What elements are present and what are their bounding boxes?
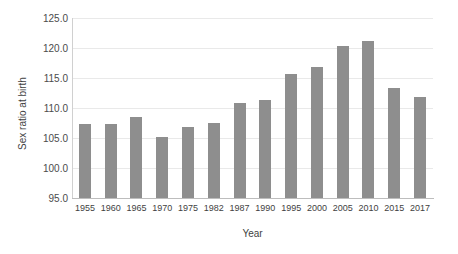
x-tick-label: 2005 — [330, 203, 356, 213]
bar-slot — [381, 18, 407, 198]
x-axis-title: Year — [72, 228, 433, 239]
bar-slot — [278, 18, 304, 198]
y-axis-title-wrap: Sex ratio at birth — [8, 0, 28, 254]
bar-slot — [201, 18, 227, 198]
bar-slot — [72, 18, 98, 198]
x-tick-label: 1990 — [252, 203, 278, 213]
bar — [105, 124, 117, 198]
bar — [182, 127, 194, 198]
bar-slot — [175, 18, 201, 198]
bar — [311, 67, 323, 198]
bar-slot — [407, 18, 433, 198]
x-tick-label: 1965 — [124, 203, 150, 213]
x-axis-tick-labels: 1955 1960 1965 1970 1975 1982 1987 1990 … — [72, 203, 433, 213]
bar — [208, 123, 220, 198]
bar-series — [72, 18, 433, 198]
x-tick-label: 2017 — [407, 203, 433, 213]
bar-slot — [330, 18, 356, 198]
bar-slot — [356, 18, 382, 198]
bar-slot — [227, 18, 253, 198]
bar — [234, 103, 246, 198]
bar — [259, 100, 271, 198]
bar — [285, 74, 297, 198]
x-tick-label: 1955 — [72, 203, 98, 213]
bar — [130, 117, 142, 198]
x-tick-label: 2000 — [304, 203, 330, 213]
x-tick-label: 1970 — [149, 203, 175, 213]
x-tick-label: 1987 — [227, 203, 253, 213]
bar-slot — [98, 18, 124, 198]
bar-slot — [252, 18, 278, 198]
bar-slot — [124, 18, 150, 198]
y-axis-title: Sex ratio at birth — [17, 34, 28, 194]
bar — [337, 46, 349, 198]
x-tick-label: 1960 — [98, 203, 124, 213]
bar — [79, 124, 91, 198]
x-tick-label: 2010 — [356, 203, 382, 213]
bar — [414, 97, 426, 198]
x-tick-label: 1982 — [201, 203, 227, 213]
bar — [156, 137, 168, 198]
x-tick-label: 1995 — [278, 203, 304, 213]
bar-slot — [149, 18, 175, 198]
x-axis-line — [72, 198, 434, 199]
x-tick-label: 2015 — [381, 203, 407, 213]
x-tick-label: 1975 — [175, 203, 201, 213]
bar-chart: 125.0 120.0 115.0 110.0 105.0 100.0 95.0 — [0, 0, 458, 254]
bar — [388, 88, 400, 198]
bar-slot — [304, 18, 330, 198]
bar — [362, 41, 374, 198]
